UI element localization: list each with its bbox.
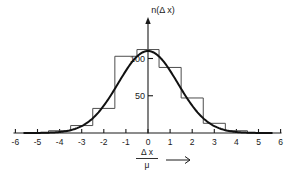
x-tick-label: 6 <box>278 137 283 147</box>
x-tick-label: -4 <box>56 137 64 147</box>
y-axis-arrow-icon <box>145 17 150 24</box>
x-tick-label: -2 <box>100 137 108 147</box>
x-axis-label-numerator: Δ x <box>141 147 154 157</box>
x-tick-label: -6 <box>12 137 20 147</box>
x-tick-label: 0 <box>146 137 151 147</box>
x-tick-label: -5 <box>34 137 42 147</box>
x-tick-label: 3 <box>212 137 217 147</box>
x-tick-label: 2 <box>190 137 195 147</box>
histogram-figure: n(Δ x) -6-5-4-3-2-10123456 50100 Δ x μ <box>0 0 295 176</box>
y-tick-label: 50 <box>135 91 145 101</box>
x-tick-label: -3 <box>78 137 86 147</box>
x-tick-label: 5 <box>256 137 261 147</box>
x-tick-label: -1 <box>122 137 130 147</box>
x-axis-label-denominator: μ <box>145 160 150 170</box>
y-axis-label: n(Δ x) <box>151 5 175 15</box>
x-tick-label: 1 <box>168 137 173 147</box>
x-axis-direction-arrow-icon <box>166 157 190 164</box>
plot-canvas: n(Δ x) -6-5-4-3-2-10123456 50100 Δ x μ <box>0 0 295 176</box>
x-tick-label: 4 <box>234 137 239 147</box>
